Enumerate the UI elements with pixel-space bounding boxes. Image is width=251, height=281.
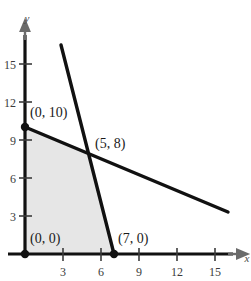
point-label-y-intercept: (0, 10) (30, 105, 68, 121)
y-tick-label-12: 12 (4, 96, 16, 110)
point-label-x-intercept: (7, 0) (118, 231, 149, 247)
vertex-dot-origin (21, 250, 29, 258)
x-tick-label-15: 15 (209, 265, 221, 279)
x-tick-label-3: 3 (60, 265, 66, 279)
y-tick-label-9: 9 (10, 134, 16, 148)
x-tick-label-9: 9 (136, 265, 142, 279)
y-tick-label-15: 15 (4, 58, 16, 72)
x-tick-label-12: 12 (171, 265, 183, 279)
vertex-dot-x-intercept (110, 250, 118, 258)
point-label-intersection: (5, 8) (95, 136, 126, 152)
y-axis-name-label: y (24, 12, 30, 24)
x-axis-name-label: x (244, 252, 250, 264)
vertex-dot-y-intercept (21, 123, 29, 131)
x-tick-label-6: 6 (98, 265, 104, 279)
feasible-region-figure: 3 6 9 12 15 3 6 9 12 15 y x (0, 10) (5, … (0, 0, 251, 281)
y-tick-label-6: 6 (10, 172, 16, 186)
y-tick-label-3: 3 (10, 210, 16, 224)
point-label-origin: (0, 0) (30, 231, 61, 247)
